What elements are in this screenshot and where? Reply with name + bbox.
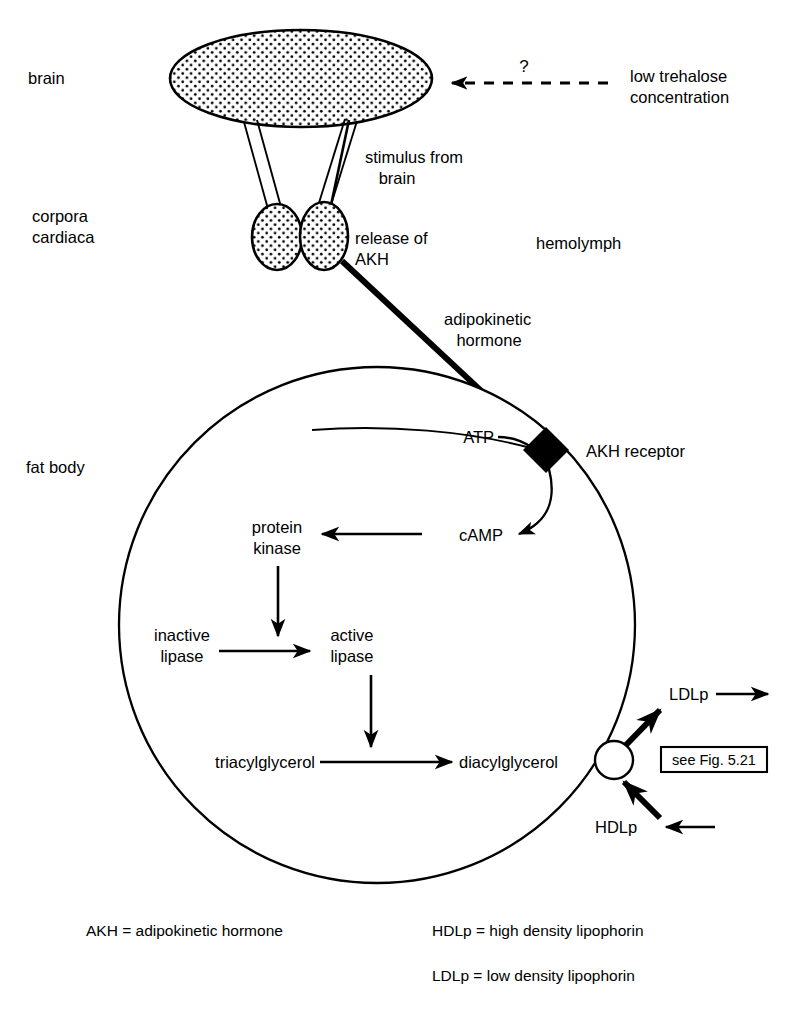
label-triacylglycerol: triacylglycerol — [215, 753, 315, 771]
corpora-cardiaca-organ — [252, 202, 348, 270]
corpus-cardiacum-right — [300, 202, 348, 270]
label-akh-receptor: AKH receptor — [586, 442, 686, 460]
label-brain: brain — [28, 69, 65, 87]
label-active-lipase-line2: lipase — [330, 647, 373, 665]
label-stimulus-line2: brain — [379, 169, 416, 187]
label-question-mark: ? — [519, 57, 528, 76]
ldlp-out-arrow — [626, 710, 660, 745]
brain-ellipse — [170, 30, 432, 127]
brain-organ — [170, 30, 432, 127]
label-camp: cAMP — [459, 526, 503, 544]
hdlp-import — [624, 782, 715, 827]
label-adipokinetic-line1: adipokinetic — [444, 310, 531, 328]
label-stimulus-line1: stimulus from — [365, 148, 463, 166]
legend-hdlp: HDLp = high density lipophorin — [432, 922, 644, 939]
corpus-cardiacum-left — [252, 204, 302, 270]
label-inactive-lipase-line2: lipase — [160, 647, 203, 665]
label-release-of-akh-line2: AKH — [355, 250, 389, 268]
low-trehalose-signal: ? low trehalose concentration — [452, 57, 729, 106]
label-see-figure: see Fig. 5.21 — [672, 752, 756, 768]
label-hdlp: HDLp — [595, 818, 637, 836]
legend-ldlp: LDLp = low density lipophorin — [432, 967, 635, 984]
label-inactive-lipase-line1: inactive — [154, 626, 210, 644]
label-low-trehalose-line2: concentration — [630, 88, 729, 106]
cross-reference-box[interactable]: see Fig. 5.21 — [661, 747, 767, 772]
label-hemolymph: hemolymph — [536, 234, 621, 252]
label-adipokinetic-line2: hormone — [456, 331, 521, 349]
figure-canvas: brain ? low trehalose concentration stim… — [0, 0, 794, 1027]
label-diacylglycerol: diacylglycerol — [459, 753, 558, 771]
transporter-circle — [595, 741, 633, 779]
lipophorin-transporter — [595, 741, 633, 779]
label-fat-body: fat body — [26, 458, 85, 476]
label-release-of-akh-line1: release of — [355, 229, 428, 247]
hdlp-in-arrow — [624, 782, 660, 818]
label-low-trehalose-line1: low trehalose — [630, 67, 727, 85]
label-ldlp: LDLp — [669, 685, 708, 703]
label-active-lipase-line1: active — [330, 626, 373, 644]
label-corpora-cardiaca-line2: cardiaca — [32, 228, 95, 246]
label-corpora-cardiaca-line1: corpora — [32, 207, 89, 225]
nerve-tract-left-edge-a — [244, 122, 268, 209]
label-protein-kinase-line2: kinase — [253, 539, 301, 557]
akh-pathway-diagram: brain ? low trehalose concentration stim… — [0, 0, 794, 1027]
legend: AKH = adipokinetic hormone HDLp = high d… — [86, 922, 644, 984]
nerve-tract-left-edge-b — [257, 120, 281, 207]
label-atp: ATP — [463, 428, 494, 446]
legend-akh: AKH = adipokinetic hormone — [86, 922, 283, 939]
label-protein-kinase-line1: protein — [252, 518, 302, 536]
